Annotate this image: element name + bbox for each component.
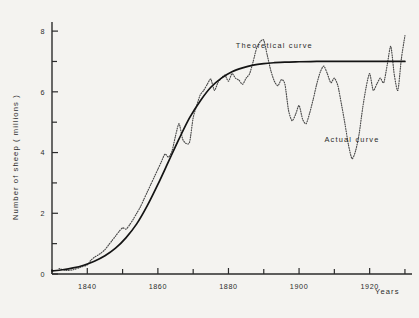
y-axis-ticks [52, 31, 58, 274]
actual-curve-label: Actual curve [324, 135, 379, 144]
theoretical-curve-label: Theoretical curve [236, 41, 313, 50]
x-tick-label: 1880 [219, 282, 237, 291]
y-axis-tick-labels: 02468 [40, 27, 45, 279]
x-tick-label: 1860 [149, 282, 167, 291]
theoretical-curve-path [52, 61, 405, 271]
chart-svg: 02468 Number of sheep ( millions ) 18401… [0, 0, 419, 318]
chart-annotations: Theoretical curveActual curve [236, 41, 380, 144]
y-tick-label: 4 [40, 148, 45, 157]
x-axis-group: 18401860188019001920 Years [52, 268, 412, 296]
chart-figure: 02468 Number of sheep ( millions ) 18401… [0, 0, 419, 318]
x-axis-ticks [52, 268, 405, 274]
y-tick-label: 2 [40, 209, 45, 218]
x-axis-tick-labels: 18401860188019001920 [78, 282, 379, 291]
y-tick-label: 8 [40, 27, 45, 36]
y-axis-title: Number of sheep ( millions ) [11, 94, 20, 220]
x-tick-label: 1840 [78, 282, 96, 291]
y-tick-label: 0 [40, 270, 45, 279]
y-axis-group: 02468 Number of sheep ( millions ) [11, 22, 58, 279]
y-tick-label: 6 [40, 88, 45, 97]
x-tick-label: 1900 [290, 282, 308, 291]
x-axis-title: Years [375, 287, 400, 296]
